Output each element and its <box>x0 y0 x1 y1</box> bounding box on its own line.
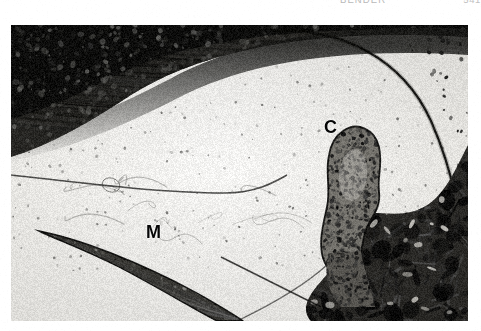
running-header: BENDER 541 <box>0 0 481 6</box>
running-header-title: BENDER <box>340 0 386 5</box>
figure-label-c: C <box>324 118 337 136</box>
page-number: 541 <box>463 0 481 5</box>
figure-label-m: M <box>146 223 161 241</box>
figure-plate: C M <box>11 25 468 321</box>
micrograph-image <box>11 25 468 321</box>
